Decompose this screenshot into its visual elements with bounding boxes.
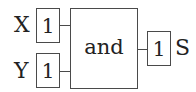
and-gate-box: and (70, 8, 138, 89)
input-x-label: X (14, 14, 30, 36)
input-x-value-box: 1 (36, 8, 60, 43)
output-s-value: 1 (153, 39, 166, 59)
gate-label: and (84, 37, 124, 58)
output-s-label: S (175, 37, 190, 59)
input-y-value: 1 (42, 61, 55, 81)
input-y-wire (60, 71, 70, 72)
input-x-value: 1 (42, 16, 55, 36)
and-gate-diagram: X 1 Y 1 and 1 S (0, 0, 196, 92)
output-s-wire (137, 49, 147, 50)
input-x-wire (60, 25, 70, 26)
input-y-label: Y (14, 60, 29, 82)
input-y-value-box: 1 (36, 53, 60, 88)
output-s-value-box: 1 (147, 31, 171, 66)
